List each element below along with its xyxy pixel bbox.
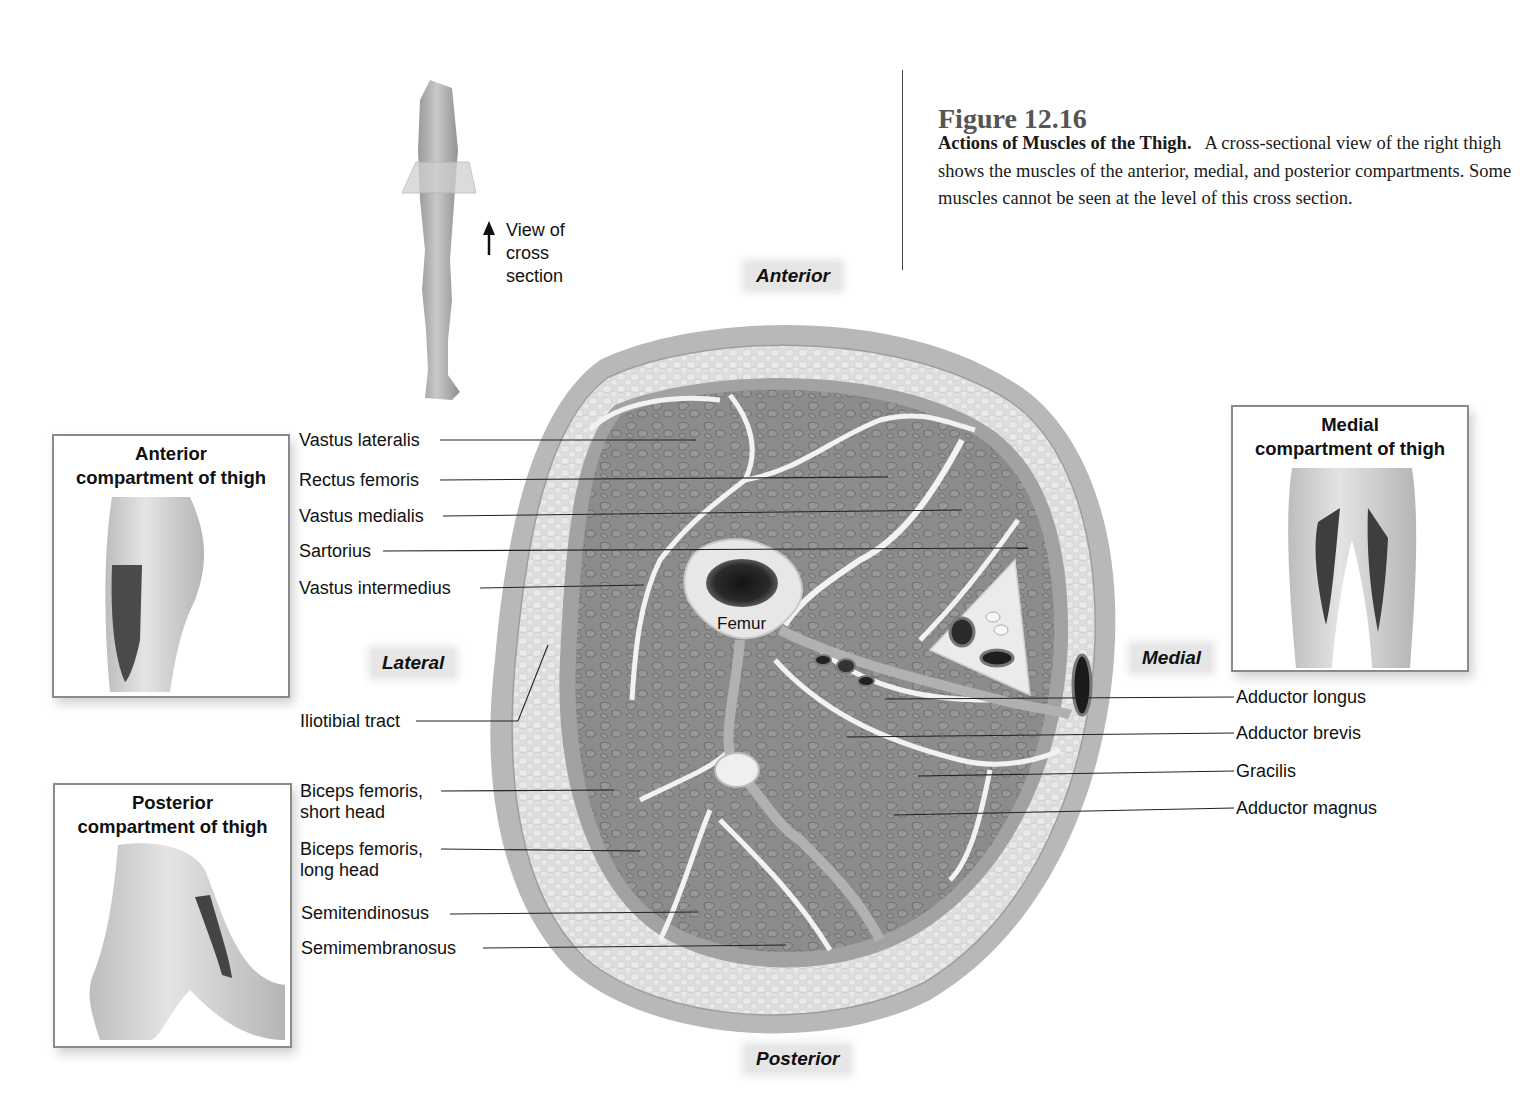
cross-section: [490, 325, 1115, 1033]
label-adductor-longus: Adductor longus: [1236, 687, 1366, 708]
posterior-inset-title-line1: Posterior: [55, 791, 290, 815]
medial-compartment-inset: Medial compartment of thigh: [1231, 405, 1469, 672]
anterior-inset-title-line2: compartment of thigh: [54, 466, 288, 490]
orientation-lateral: Lateral: [372, 650, 454, 676]
femur-marrow: [706, 559, 778, 607]
leg-orientation-figure: [402, 80, 476, 400]
view-arrow-icon: [483, 221, 495, 255]
femur-label: Femur: [717, 614, 766, 633]
anterior-inset-title: Anterior compartment of thigh: [54, 442, 288, 490]
medial-inset-title: Medial compartment of thigh: [1233, 413, 1467, 461]
label-vastus-intermedius: Vastus intermedius: [299, 578, 451, 599]
medial-inset-title-line2: compartment of thigh: [1233, 437, 1467, 461]
label-gracilis: Gracilis: [1236, 761, 1296, 782]
label-line: Biceps femoris,: [300, 839, 423, 860]
label-iliotibial-tract: Iliotibial tract: [300, 711, 400, 732]
label-adductor-brevis: Adductor brevis: [1236, 723, 1361, 744]
label-vastus-medialis: Vastus medialis: [299, 506, 424, 527]
orientation-medial: Medial: [1132, 645, 1211, 671]
label-semimembranosus: Semimembranosus: [301, 938, 456, 959]
posterior-inset-title-line2: compartment of thigh: [55, 815, 290, 839]
orientation-posterior: Posterior: [746, 1046, 849, 1072]
label-line: short head: [300, 802, 423, 823]
posterior-compartment-inset: Posterior compartment of thigh: [53, 783, 292, 1048]
label-line: Biceps femoris,: [300, 781, 423, 802]
label-adductor-magnus: Adductor magnus: [1236, 798, 1377, 819]
label-sartorius: Sartorius: [299, 541, 371, 562]
view-cross-section-label: View of cross section: [506, 219, 565, 288]
view-line-2: cross: [506, 242, 565, 265]
label-biceps-femoris-short-head: Biceps femoris, short head: [300, 781, 423, 823]
medial-inset-title-line1: Medial: [1233, 413, 1467, 437]
anterior-compartment-inset: Anterior compartment of thigh: [52, 434, 290, 698]
view-line-1: View of: [506, 219, 565, 242]
label-biceps-femoris-long-head: Biceps femoris, long head: [300, 839, 423, 881]
orientation-anterior: Anterior: [746, 263, 840, 289]
label-line: long head: [300, 860, 423, 881]
view-line-3: section: [506, 265, 565, 288]
label-vastus-lateralis: Vastus lateralis: [299, 430, 420, 451]
label-semitendinosus: Semitendinosus: [301, 903, 429, 924]
posterior-inset-title: Posterior compartment of thigh: [55, 791, 290, 839]
label-rectus-femoris: Rectus femoris: [299, 470, 419, 491]
anterior-inset-title-line1: Anterior: [54, 442, 288, 466]
